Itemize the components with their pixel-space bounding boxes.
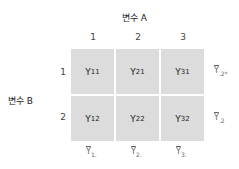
- col-mean-3: Y3.: [176, 147, 187, 158]
- mean-sub: 2.: [136, 151, 142, 158]
- cell-sub: 31: [181, 68, 190, 76]
- mean-sub: .2: [219, 117, 225, 124]
- cell-sub: 32: [181, 115, 190, 123]
- cell-y31: Y31: [161, 49, 204, 94]
- row-level-1: 1: [58, 67, 68, 77]
- cell-sub: 22: [136, 115, 145, 123]
- row-mean-2: Y.2: [214, 113, 225, 124]
- col-mean-1: Y1.: [86, 147, 97, 158]
- row-level-2: 2: [58, 112, 68, 122]
- cell-y11: Y11: [71, 49, 114, 94]
- cell-y22: Y22: [116, 96, 159, 141]
- factor-a-label: 변수 A: [122, 11, 147, 24]
- factor-b-label: 변수 B: [8, 94, 33, 107]
- cell-sub: 12: [91, 115, 100, 123]
- col-level-1: 1: [71, 32, 115, 42]
- col-mean-2: Y2.: [131, 147, 142, 158]
- cell-y12: Y12: [71, 96, 114, 141]
- mean-sub: .2*: [219, 70, 228, 77]
- cell-y21: Y21: [116, 49, 159, 94]
- col-level-2: 2: [116, 32, 160, 42]
- cell-sub: 21: [136, 68, 145, 76]
- mean-sub: 3.: [181, 151, 187, 158]
- cell-sub: 11: [91, 68, 100, 76]
- col-level-3: 3: [161, 32, 205, 42]
- mean-sub: 1.: [91, 151, 97, 158]
- cell-y32: Y32: [161, 96, 204, 141]
- row-mean-1: Y.2*: [214, 66, 228, 77]
